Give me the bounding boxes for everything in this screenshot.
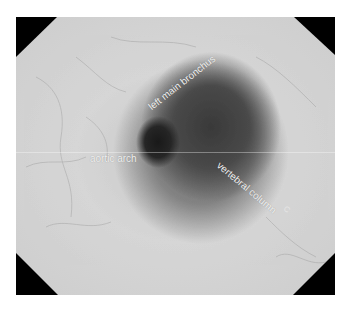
scan-line	[16, 152, 335, 153]
endoscopy-image-frame: left main bronchus aortic arch vertebral…	[16, 17, 335, 295]
label-aortic-arch: aortic arch	[90, 153, 137, 164]
mucosal-vessels	[16, 17, 335, 295]
endoscopy-image: left main bronchus aortic arch vertebral…	[16, 17, 335, 295]
